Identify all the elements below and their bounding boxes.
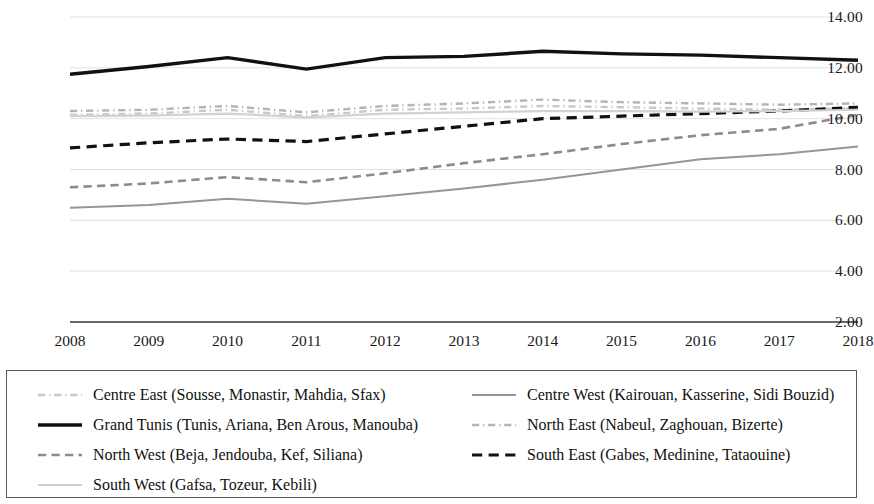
y-axis-tick-label: 4.00: [801, 262, 863, 280]
y-axis-tick-label: 2.00: [801, 313, 863, 331]
legend-item-centre-west[interactable]: Centre West (Kairouan, Kasserine, Sidi B…: [471, 385, 834, 405]
legend-item-north-east[interactable]: North East (Nabeul, Zaghouan, Bizerte): [471, 415, 783, 435]
legend-item-south-east[interactable]: South East (Gabes, Medinine, Tataouine): [471, 445, 790, 465]
legend-line-swatch-solid: [37, 418, 83, 432]
legend-item-label: North East (Nabeul, Zaghouan, Bizerte): [527, 415, 783, 435]
legend-item-label: South East (Gabes, Medinine, Tataouine): [527, 445, 790, 465]
chart-legend: Centre East (Sousse, Monastir, Mahdia, S…: [6, 370, 857, 498]
y-axis-tick-label: 14.00: [801, 8, 863, 26]
chart-svg: [0, 0, 863, 360]
y-axis-tick-label: 8.00: [801, 161, 863, 179]
legend-line-swatch-dashed: [37, 448, 83, 462]
chart-plot-area: 14.0012.0010.008.006.004.002.00 20082009…: [0, 0, 863, 360]
x-axis-tick-label: 2014: [527, 332, 558, 350]
legend-item-label: Centre West (Kairouan, Kasserine, Sidi B…: [527, 385, 834, 405]
x-axis-tick-label: 2016: [685, 332, 716, 350]
x-axis-tick-label: 2018: [843, 332, 874, 350]
x-axis-tick-label: 2010: [212, 332, 243, 350]
x-axis-tick-label: 2011: [291, 332, 321, 350]
series-lines-group: [70, 51, 858, 207]
legend-items-container: Centre East (Sousse, Monastir, Mahdia, S…: [7, 371, 856, 497]
legend-item-label: Grand Tunis (Tunis, Ariana, Ben Arous, M…: [93, 415, 418, 435]
x-axis-tick-label: 2013: [449, 332, 480, 350]
legend-line-swatch-dashed: [471, 448, 517, 462]
legend-item-label: South West (Gafsa, Tozeur, Kebili): [93, 475, 317, 495]
series-line-grand-tunis: [70, 51, 858, 74]
legend-line-swatch-dash-dot: [471, 418, 517, 432]
legend-line-swatch-solid: [37, 478, 83, 492]
y-axis-tick-label: 6.00: [801, 211, 863, 229]
legend-line-swatch-solid: [471, 388, 517, 402]
x-axis-tick-label: 2012: [370, 332, 401, 350]
legend-item-label: North West (Beja, Jendouba, Kef, Siliana…: [93, 445, 362, 465]
y-axis-tick-label: 12.00: [801, 59, 863, 77]
legend-item-label: Centre East (Sousse, Monastir, Mahdia, S…: [93, 385, 386, 405]
x-axis-tick-label: 2017: [764, 332, 795, 350]
legend-item-centre-east[interactable]: Centre East (Sousse, Monastir, Mahdia, S…: [37, 385, 386, 405]
legend-item-south-west[interactable]: South West (Gafsa, Tozeur, Kebili): [37, 475, 317, 495]
y-axis-tick-label: 10.00: [801, 110, 863, 128]
legend-line-swatch-dash-dot: [37, 388, 83, 402]
series-line-north-west: [70, 115, 858, 187]
series-line-centre-west: [70, 147, 858, 208]
legend-item-north-west[interactable]: North West (Beja, Jendouba, Kef, Siliana…: [37, 445, 362, 465]
legend-item-grand-tunis[interactable]: Grand Tunis (Tunis, Ariana, Ben Arous, M…: [37, 415, 418, 435]
x-axis-tick-label: 2009: [133, 332, 164, 350]
x-axis-tick-label: 2015: [606, 332, 637, 350]
x-axis-tick-label: 2008: [55, 332, 86, 350]
